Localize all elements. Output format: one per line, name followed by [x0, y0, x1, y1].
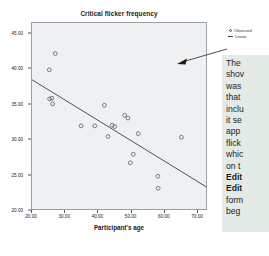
data-point	[156, 186, 160, 190]
linear-fit-line	[32, 80, 206, 187]
data-point	[50, 96, 54, 100]
y-tick-label: 30.00	[12, 137, 24, 142]
legend-entry-linear: Linear	[228, 33, 269, 39]
annotation-line: shov	[226, 69, 269, 80]
data-point	[123, 113, 127, 117]
x-tick-label: 60.00	[158, 214, 170, 219]
x-tick-mark	[131, 210, 132, 213]
annotation-line: inclu	[226, 104, 269, 115]
x-tick-label: 40.00	[92, 214, 104, 219]
data-point	[47, 68, 51, 72]
x-tick-mark	[31, 210, 32, 213]
annotation-line: beg	[226, 206, 269, 217]
scatter-svg	[32, 23, 208, 211]
x-tick-mark	[197, 210, 198, 213]
data-point	[126, 116, 130, 120]
y-axis: 45.0040.0035.0030.0025.0020.00	[0, 22, 28, 210]
annotation-line: flick	[226, 138, 269, 149]
annotation-line: whic	[226, 149, 269, 160]
x-tick-label: 50.00	[125, 214, 137, 219]
screenshot-root: Critical flicker frequency 45.0040.0035.…	[0, 0, 269, 256]
annotation-line: on t	[226, 161, 269, 172]
scatter-chart: Critical flicker frequency 45.0040.0035.…	[0, 0, 212, 256]
data-point	[51, 102, 55, 106]
x-tick-mark	[164, 210, 165, 213]
y-tick-label: 45.00	[12, 30, 24, 35]
regression-line	[32, 80, 206, 187]
legend-label-observed: Observed	[234, 28, 252, 33]
legend-label-linear: Linear	[235, 34, 246, 39]
y-tick-label: 40.00	[12, 66, 24, 71]
x-tick-label: 20.00	[25, 214, 37, 219]
x-tick-label: 70.00	[191, 214, 203, 219]
y-tick-label: 20.00	[12, 208, 24, 213]
annotation-line: Edit	[226, 183, 269, 194]
y-tick-label: 25.00	[12, 172, 24, 177]
chart-title: Critical flicker frequency	[31, 10, 207, 17]
data-point	[136, 132, 140, 136]
line-segment-icon	[228, 36, 233, 37]
data-point	[128, 161, 132, 165]
x-axis: 20.0030.0040.0050.0060.0070.00	[31, 210, 207, 222]
x-tick-label: 30.00	[58, 214, 70, 219]
plot-area	[31, 22, 207, 210]
annotation-line: form	[226, 195, 269, 206]
annotation-line: app	[226, 126, 269, 137]
annotation-line: Edit	[226, 172, 269, 183]
data-point	[106, 135, 110, 139]
x-axis-title: Participant's age	[31, 224, 207, 231]
data-point	[79, 124, 83, 128]
observed-points-group	[47, 52, 183, 191]
annotation-line: that	[226, 92, 269, 103]
annotation-line: it se	[226, 115, 269, 126]
data-point	[93, 124, 97, 128]
chart-legend: Observed Linear	[228, 27, 269, 41]
plot-inner	[32, 23, 206, 209]
annotation-text: Theshovwasthatincluit seappflickwhicon t…	[226, 58, 269, 218]
annotation-line: was	[226, 81, 269, 92]
data-point	[156, 174, 160, 178]
annotation-line: The	[226, 58, 269, 69]
annotation-panel: Theshovwasthatincluit seappflickwhicon t…	[222, 55, 269, 232]
x-tick-mark	[97, 210, 98, 213]
y-tick-label: 35.00	[12, 101, 24, 106]
data-point	[53, 52, 57, 56]
data-point	[102, 103, 106, 107]
x-tick-mark	[64, 210, 65, 213]
data-point	[180, 135, 184, 139]
data-point	[131, 152, 135, 156]
open-circle-icon	[229, 29, 232, 32]
